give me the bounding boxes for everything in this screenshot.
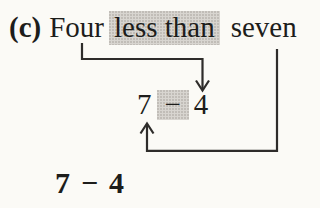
down-elbow-arrow-icon	[82, 43, 209, 91]
textbook-subtraction-figure: (c) Four less than seven 7 − 4 7 − 4	[0, 0, 320, 208]
final-expression: 7 − 4	[55, 168, 124, 198]
phrase-row: (c) Four less than seven	[9, 11, 297, 45]
phrase-word-seven: seven	[231, 11, 297, 43]
phrase-highlight-less-than: less than	[109, 11, 220, 45]
part-label: (c)	[9, 11, 41, 43]
mapped-minuend: 7	[137, 90, 152, 118]
final-operator: −	[81, 168, 98, 198]
final-subtrahend: 4	[109, 168, 124, 198]
mapped-subtrahend: 4	[194, 90, 209, 118]
phrase-word-four: Four	[49, 11, 104, 43]
final-minuend: 7	[55, 168, 70, 198]
minus-operator-highlight: −	[157, 90, 189, 120]
mapped-expression: 7 − 4	[137, 90, 208, 120]
